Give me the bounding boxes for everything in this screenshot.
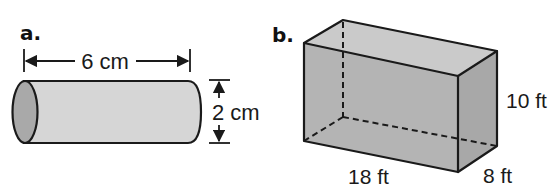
length-dimension-a: 6 cm xyxy=(24,49,190,74)
diameter-dimension-a: 2 cm xyxy=(209,80,260,143)
figure-b: b. 10 ft 18 ft 8 ft xyxy=(272,20,547,188)
prism-length-label: 18 ft xyxy=(348,165,389,188)
diagram-canvas: a. 6 cm 2 cm b. xyxy=(0,0,559,195)
prism-shape xyxy=(304,20,497,172)
cylinder-end-face xyxy=(13,81,38,143)
prism-width-label: 8 ft xyxy=(483,164,512,187)
figure-b-label: b. xyxy=(272,23,294,47)
cylinder-shape xyxy=(13,81,202,143)
cylinder-diameter-label: 2 cm xyxy=(212,100,260,125)
cylinder-length-label: 6 cm xyxy=(81,49,129,74)
prism-height-label: 10 ft xyxy=(506,89,547,112)
figure-a-label: a. xyxy=(20,21,41,45)
figure-a: a. 6 cm 2 cm xyxy=(13,21,260,143)
